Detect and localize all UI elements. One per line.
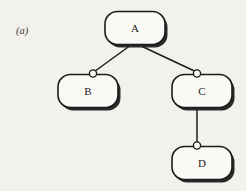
edge-connector-circle-d bbox=[193, 142, 200, 149]
figure-container: A B C D (a) bbox=[0, 0, 246, 191]
node-c-label: C bbox=[198, 85, 205, 97]
node-a[interactable]: A bbox=[105, 12, 168, 48]
tree-diagram: A B C D (a) bbox=[0, 0, 246, 191]
edge-a-b bbox=[95, 45, 132, 72]
panel-label: (a) bbox=[16, 25, 29, 37]
node-d-label: D bbox=[198, 157, 206, 169]
edge-connector-circle-c bbox=[193, 70, 200, 77]
node-d[interactable]: D bbox=[172, 147, 235, 183]
node-b[interactable]: B bbox=[58, 75, 121, 111]
edge-a-c bbox=[139, 45, 196, 72]
node-c[interactable]: C bbox=[172, 75, 235, 111]
node-b-label: B bbox=[84, 85, 91, 97]
edge-connector-circle-b bbox=[89, 70, 96, 77]
node-a-label: A bbox=[131, 22, 139, 34]
